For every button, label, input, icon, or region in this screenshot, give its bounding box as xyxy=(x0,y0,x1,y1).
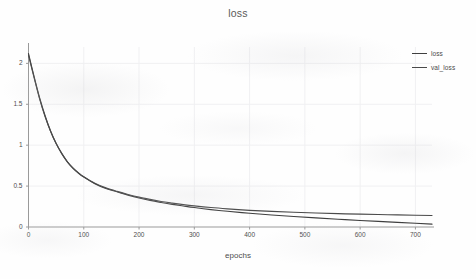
y-tick-label: 0 xyxy=(1,223,23,230)
x-tick-label: 700 xyxy=(402,231,428,238)
series-line-loss xyxy=(29,54,433,225)
gridlines xyxy=(29,47,433,227)
axis-spines xyxy=(29,43,435,227)
x-tick-label: 400 xyxy=(237,231,263,238)
legend-swatch-val-loss xyxy=(412,67,427,68)
legend-item-val-loss[interactable]: val_loss xyxy=(412,62,455,73)
x-tick-label: 600 xyxy=(347,231,373,238)
x-tick-label: 0 xyxy=(16,231,42,238)
legend-item-loss[interactable]: loss xyxy=(412,48,455,59)
series-line-val-loss xyxy=(29,55,433,215)
x-tick-label: 500 xyxy=(292,231,318,238)
x-tick-label: 100 xyxy=(71,231,97,238)
chart-legend: loss val_loss xyxy=(412,48,455,76)
x-axis-label: epochs xyxy=(0,251,476,260)
axis-tick-marks xyxy=(26,63,415,229)
legend-label-val-loss: val_loss xyxy=(431,64,455,71)
x-tick-label: 200 xyxy=(126,231,152,238)
data-series-lines xyxy=(29,54,433,225)
chart-title: loss xyxy=(0,7,476,19)
chart-figure: loss 00.511.52 0100200300400500600700 ep… xyxy=(0,0,476,279)
x-tick-label: 300 xyxy=(181,231,207,238)
legend-swatch-loss xyxy=(412,53,427,54)
y-tick-label: 1 xyxy=(1,141,23,148)
y-tick-label: 1.5 xyxy=(1,100,23,107)
y-tick-label: 2 xyxy=(1,59,23,66)
legend-label-loss: loss xyxy=(431,50,443,57)
y-tick-label: 0.5 xyxy=(1,182,23,189)
